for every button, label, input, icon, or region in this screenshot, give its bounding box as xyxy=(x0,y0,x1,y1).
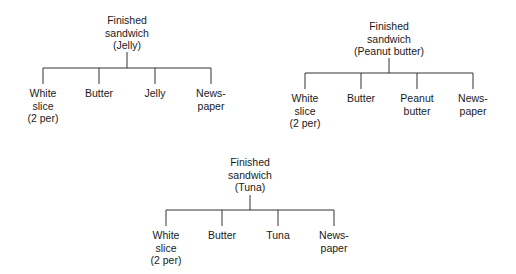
tree-child-node: Jelly xyxy=(144,87,165,100)
tree-child-node: News- paper xyxy=(319,229,349,254)
tree-child-node: White slice (2 per) xyxy=(151,229,182,267)
tree-child-node: White slice (2 per) xyxy=(28,87,59,125)
tree-root-node: Finished sandwich (Peanut butter) xyxy=(354,20,424,58)
tree-root-node: Finished sandwich (Jelly) xyxy=(105,14,149,52)
tree-child-node: Peanut butter xyxy=(400,92,433,117)
tree-child-node: Tuna xyxy=(266,229,290,242)
bill-of-materials-diagram xyxy=(0,0,516,274)
tree-child-node: News- paper xyxy=(196,87,226,112)
tree-child-node: Butter xyxy=(347,92,375,105)
tree-root-node: Finished sandwich (Tuna) xyxy=(228,156,272,194)
tree-child-node: White slice (2 per) xyxy=(290,92,321,130)
tree-child-node: Butter xyxy=(85,87,113,100)
tree-child-node: Butter xyxy=(208,229,236,242)
tree-child-node: News- paper xyxy=(458,92,488,117)
